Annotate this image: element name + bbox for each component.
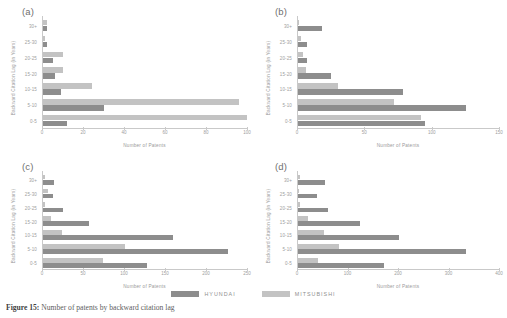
x-axis-title-a: Number of Patents [42, 143, 247, 148]
x-tick-mark [348, 268, 349, 271]
bar-mitsubishi [43, 216, 51, 221]
y-axis-title-d: Backward Citation Lag (in Years) [266, 171, 271, 281]
figure-caption-text: Number of patents by backward citation l… [41, 303, 174, 312]
bar-hyundai [298, 263, 384, 268]
bar-group [43, 18, 247, 34]
bar-mitsubishi [43, 244, 125, 249]
panel-label-b: (b) [275, 6, 287, 17]
bar-hyundai [298, 194, 317, 199]
x-tick-label: 300 [445, 271, 453, 276]
plot-area-b: 0-55-1010-1515-2020-2525-3030+ 050100150… [297, 18, 499, 129]
bar-mitsubishi [298, 115, 421, 120]
x-tick-mark [42, 127, 43, 130]
bar-group [298, 34, 499, 50]
bar-mitsubishi [298, 216, 308, 221]
bar-hyundai [43, 249, 228, 254]
bar-hyundai [298, 58, 307, 63]
bar-mitsubishi [298, 36, 301, 41]
bar-hyundai [43, 73, 55, 78]
bars-c [43, 173, 247, 270]
bar-hyundai [43, 235, 173, 240]
x-tick-labels-a: 020406080100 [42, 130, 247, 140]
y-tick-label: 5-10 [282, 103, 292, 108]
y-axis-title-b: Backward Citation Lag (in Years) [266, 23, 271, 133]
bar-hyundai [43, 26, 47, 31]
chart-panel-c: (c) Backward Citation Lag (in Years) 0-5… [0, 155, 253, 296]
x-tick-mark [398, 268, 399, 271]
x-tick-label: 200 [202, 271, 210, 276]
bar-group [43, 50, 247, 66]
panel-label-c: (c) [22, 161, 34, 172]
y-tick-label: 10-15 [280, 87, 292, 92]
x-tick-mark [206, 268, 207, 271]
x-tick-label: 100 [428, 130, 436, 135]
bar-mitsubishi [298, 230, 324, 235]
bar-mitsubishi [298, 99, 394, 104]
x-tick-labels-b: 050100150 [297, 130, 499, 140]
bar-hyundai [43, 58, 53, 63]
bar-mitsubishi [298, 189, 299, 194]
y-tick-label: 30+ [284, 23, 292, 28]
bar-group [298, 215, 499, 229]
chart-panel-d: (d) Backward Citation Lag (in Years) 0-5… [253, 155, 507, 296]
y-tick-label: 15-20 [280, 71, 292, 76]
figure-caption: Figure 15: Number of patents by backward… [6, 303, 501, 312]
bar-group [43, 97, 247, 113]
bar-mitsubishi [298, 258, 318, 263]
y-tick-label: 30+ [29, 23, 37, 28]
panel-label-a: (a) [22, 6, 34, 17]
x-tick-mark [499, 127, 500, 130]
bar-hyundai [298, 235, 399, 240]
bar-group [298, 81, 499, 97]
x-tick-label: 100 [120, 271, 128, 276]
y-tick-label: 20-25 [25, 205, 37, 210]
legend-label-hyundai: HYUNDAI [204, 291, 235, 297]
y-tick-label: 10-15 [25, 87, 37, 92]
bar-mitsubishi [298, 67, 306, 72]
bars-b [298, 18, 499, 129]
bar-hyundai [298, 105, 466, 110]
y-tick-label: 15-20 [25, 219, 37, 224]
x-tick-label: 50 [80, 271, 85, 276]
bar-mitsubishi [298, 175, 300, 180]
y-tick-label: 5-10 [27, 103, 37, 108]
x-tick-label: 150 [495, 130, 503, 135]
bar-hyundai [298, 249, 466, 254]
y-tick-label: 10-15 [25, 233, 37, 238]
panel-grid: (a) Backward Citation Lag (in Years) 0-5… [0, 0, 507, 296]
bar-group [43, 81, 247, 97]
x-tick-mark [83, 127, 84, 130]
x-tick-label: 50 [362, 130, 367, 135]
bar-mitsubishi [43, 258, 103, 263]
bar-mitsubishi [43, 99, 239, 104]
y-tick-label: 5-10 [282, 247, 292, 252]
x-tick-label: 200 [394, 271, 402, 276]
bar-hyundai [298, 208, 328, 213]
x-tick-mark [206, 127, 207, 130]
chart-panel-b: (b) Backward Citation Lag (in Years) 0-5… [253, 0, 507, 155]
bar-hyundai [298, 73, 331, 78]
x-tick-mark [165, 268, 166, 271]
bar-mitsubishi [43, 83, 92, 88]
y-tick-label: 25-30 [280, 39, 292, 44]
x-tick-label: 40 [121, 130, 126, 135]
legend-item-hyundai: HYUNDAI [171, 291, 235, 297]
bar-mitsubishi [43, 67, 63, 72]
bar-group [43, 173, 247, 187]
bar-mitsubishi [298, 244, 339, 249]
x-tick-label: 100 [344, 271, 352, 276]
legend-label-mitsubishi: MITSUBISHI [295, 291, 336, 297]
x-tick-mark [297, 127, 298, 130]
bar-group [43, 242, 247, 256]
bar-group [298, 97, 499, 113]
x-tick-label: 60 [162, 130, 167, 135]
bar-group [43, 215, 247, 229]
x-tick-mark [42, 268, 43, 271]
bar-group [43, 66, 247, 82]
x-tick-mark [165, 127, 166, 130]
bar-mitsubishi [43, 52, 63, 57]
bar-mitsubishi [43, 202, 45, 207]
bar-group [298, 113, 499, 129]
x-tick-label: 250 [243, 271, 251, 276]
y-tick-label: 30+ [284, 177, 292, 182]
